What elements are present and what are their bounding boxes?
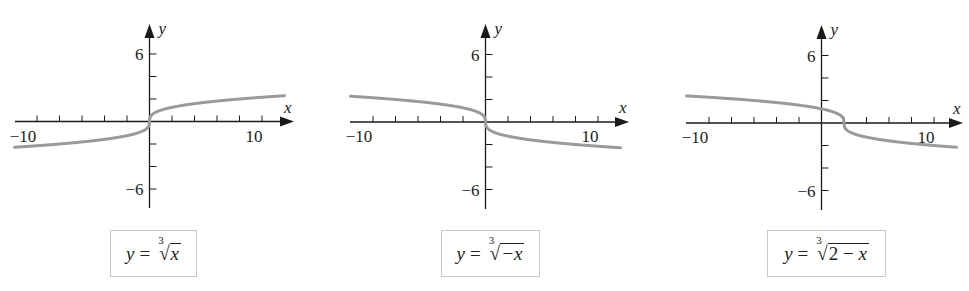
y-tick-label: 6 <box>135 45 144 64</box>
x-axis-arrow-icon <box>949 118 963 128</box>
x-axis-label: x <box>283 98 292 117</box>
formula-eq: = <box>470 243 481 265</box>
formula-box-2: y=3√−x <box>441 230 540 277</box>
formula-eq: = <box>798 243 809 265</box>
formula-box-3: y=3√2 − x <box>767 230 886 277</box>
y-tick-label: 6 <box>471 46 480 65</box>
formula-lhs: y <box>784 243 792 265</box>
y-axis-arrow-icon <box>817 25 827 39</box>
y-axis-label: y <box>157 19 167 38</box>
x-tick-label: −10 <box>346 127 373 146</box>
graph-1: −10106−6xy <box>10 19 294 208</box>
radicand: −x <box>500 243 524 265</box>
formula-lhs: y <box>457 243 465 265</box>
x-axis-label: x <box>618 98 627 117</box>
y-axis-arrow-icon <box>481 24 491 38</box>
x-tick-label: 10 <box>246 127 263 146</box>
cube-root-icon: 3√−x <box>490 243 525 265</box>
formula-lhs: y <box>126 243 134 265</box>
formula-box-1: y=3√x <box>110 230 197 277</box>
graph-3: −10106−6xy <box>682 20 963 210</box>
radicand: x <box>170 243 181 265</box>
x-axis-arrow-icon <box>615 117 629 127</box>
y-axis-label: y <box>829 20 839 39</box>
y-axis-arrow-icon <box>145 24 155 38</box>
cube-root-icon: 3√x <box>159 243 181 265</box>
x-axis-arrow-icon <box>280 117 294 127</box>
x-axis-label: x <box>952 99 961 118</box>
radicand: 2 − x <box>828 243 869 265</box>
formula-eq: = <box>139 243 150 265</box>
y-axis-label: y <box>493 19 503 38</box>
y-tick-label: −6 <box>797 182 815 201</box>
y-tick-label: −6 <box>461 181 479 200</box>
y-tick-label: −6 <box>125 180 143 199</box>
x-tick-label: 10 <box>582 127 599 146</box>
x-tick-label: −10 <box>10 127 37 146</box>
graph-2: −10106−6xy <box>346 19 629 209</box>
y-tick-label: 6 <box>807 47 816 66</box>
cube-root-icon: 3√2 − x <box>817 243 869 265</box>
x-tick-label: −10 <box>682 128 709 147</box>
